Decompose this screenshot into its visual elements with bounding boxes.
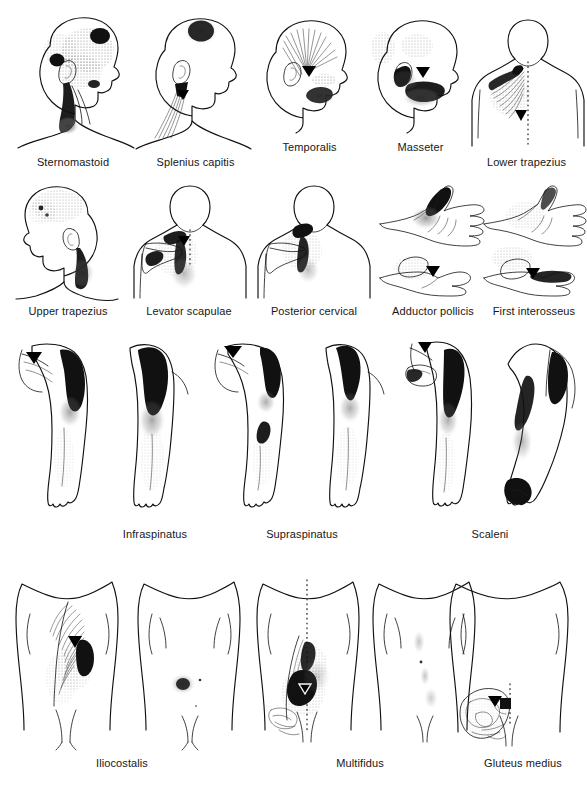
figure-iliocostalis [10, 580, 250, 750]
panel-infraspinatus [12, 338, 192, 513]
caption-gluteus-medius: Gluteus medius [460, 757, 586, 769]
figure-gluteus-medius [448, 580, 587, 750]
caption-first-interosseus: First interosseus [474, 305, 587, 317]
figure-levator-scapulae [128, 178, 250, 300]
caption-supraspinatus: Supraspinatus [246, 528, 358, 540]
panel-upper-trapezius [14, 178, 132, 300]
caption-infraspinatus: Infraspinatus [100, 528, 210, 540]
caption-posterior-cervical: Posterior cervical [248, 305, 380, 317]
caption-temporalis: Temporalis [252, 141, 367, 153]
panel-supraspinatus [208, 338, 388, 513]
panel-gluteus-medius [448, 580, 587, 750]
figure-adductor-pollicis [378, 178, 488, 300]
figure-sternomastoid [8, 10, 138, 150]
figure-masseter [363, 10, 478, 135]
panel-adductor-pollicis [378, 178, 488, 300]
figure-supraspinatus [208, 338, 388, 513]
panel-temporalis: Temporalis [252, 10, 367, 135]
figure-multifidus [255, 580, 480, 750]
caption-splenius-capitis: Splenius capitis [133, 156, 258, 168]
panel-first-interosseus [482, 178, 587, 300]
panel-splenius-capitis: Splenius capitis [133, 10, 258, 150]
trigger-point-plate: Sternomastoid Splenius capitis [0, 0, 587, 786]
figure-infraspinatus [12, 338, 192, 513]
figure-lower-trapezius [466, 10, 587, 150]
figure-scaleni [400, 338, 580, 513]
caption-upper-trapezius: Upper trapezius [8, 305, 128, 317]
figure-temporalis [252, 10, 367, 135]
caption-scaleni: Scaleni [442, 528, 538, 540]
panel-multifidus [255, 580, 480, 750]
panel-lower-trapezius: Lower trapezius [466, 10, 587, 150]
caption-lower-trapezius: Lower trapezius [466, 156, 587, 168]
panel-masseter: Masseter [363, 10, 478, 135]
caption-levator-scapulae: Levator scapulae [126, 305, 252, 317]
panel-sternomastoid: Sternomastoid [8, 10, 138, 150]
panel-scaleni [400, 338, 580, 513]
figure-splenius-capitis [133, 10, 258, 150]
caption-sternomastoid: Sternomastoid [8, 156, 138, 168]
figure-upper-trapezius [14, 178, 132, 300]
figure-first-interosseus [482, 178, 587, 300]
panel-levator-scapulae [128, 178, 250, 300]
caption-iliocostalis: Iliocostalis [62, 757, 182, 769]
panel-iliocostalis [10, 580, 250, 750]
figure-posterior-cervical [252, 178, 374, 300]
caption-multifidus: Multifidus [300, 757, 420, 769]
panel-posterior-cervical [252, 178, 374, 300]
caption-masseter: Masseter [363, 141, 478, 153]
